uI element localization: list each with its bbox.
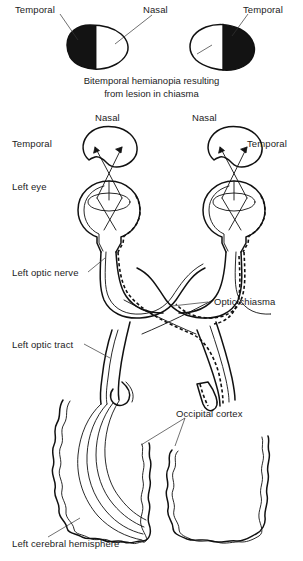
label-occipital-cortex: Occipital cortex — [176, 408, 243, 419]
label-top-left-temporal: Temporal — [15, 4, 55, 15]
figure-root: Temporal Nasal Temporal Bitemporal hemia… — [0, 0, 303, 561]
label-temporal-right: Temporal — [247, 138, 287, 149]
left-field-seeing-half — [96, 20, 136, 76]
optic-chiasma-and-nerves — [100, 252, 271, 406]
caption-line-1: Bitemporal hemianopia resulting — [0, 75, 303, 88]
leader-nasal-top — [115, 15, 152, 44]
label-nasal-left: Nasal — [95, 112, 120, 123]
label-left-optic-tract: Left optic tract — [12, 339, 73, 350]
right-field-blind-half — [223, 20, 263, 76]
leader-occipital-cortex-right — [175, 418, 185, 446]
leader-left-optic-nerve — [88, 258, 105, 272]
right-tract-stub-dashed — [200, 384, 208, 406]
left-field-blob-pathway — [83, 126, 137, 167]
panel-caption: Bitemporal hemianopia resulting from les… — [0, 75, 303, 100]
right-visual-field-defect — [185, 20, 263, 76]
label-left-eye: Left eye — [12, 181, 47, 192]
label-temporal-left: Temporal — [12, 138, 52, 149]
leader-occipital-cortex-left — [141, 418, 185, 445]
label-top-nasal: Nasal — [143, 4, 168, 15]
right-cerebral-hemisphere — [166, 382, 269, 543]
left-visual-field-defect — [60, 20, 136, 76]
label-left-cerebral-hemisphere: Left cerebral hemisphere — [12, 538, 119, 549]
label-top-right-temporal: Temporal — [243, 4, 283, 15]
label-nasal-right: Nasal — [192, 112, 217, 123]
caption-line-2: from lesion in chiasma — [0, 88, 303, 101]
label-optic-chiasma: Optic chiasma — [214, 296, 276, 307]
left-nasal-fibres-dashed — [118, 252, 223, 404]
left-cerebral-hemisphere — [52, 382, 151, 544]
label-left-optic-nerve: Left optic nerve — [12, 267, 79, 278]
